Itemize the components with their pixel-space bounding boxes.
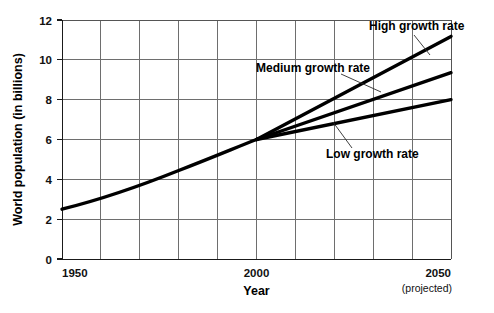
x-tick-label-2050: 2050 <box>425 267 451 279</box>
x-tick-label-1950: 1950 <box>62 267 88 279</box>
y-tick-label-4: 4 <box>46 174 53 186</box>
x-tick-sublabel-projected: (projected) <box>402 282 452 294</box>
annotation-low-growth-rate: Low growth rate <box>326 147 419 161</box>
y-axis-title: World population (in billions) <box>11 53 25 226</box>
chart-canvas: 12 10 8 6 4 2 0 1950 2000 2050 (projecte… <box>0 0 494 313</box>
y-tick-label-0: 0 <box>46 254 52 266</box>
y-axis-ticks <box>57 20 62 259</box>
y-tick-label-10: 10 <box>39 54 52 66</box>
x-axis-title: Year <box>243 284 270 298</box>
y-tick-label-2: 2 <box>46 214 52 226</box>
annotation-high-growth-rate: High growth rate <box>369 19 465 33</box>
annotation-medium-growth-rate: Medium growth rate <box>256 61 370 75</box>
y-tick-label-8: 8 <box>46 94 53 106</box>
x-tick-label-2000: 2000 <box>244 267 270 279</box>
y-tick-label-6: 6 <box>46 134 52 146</box>
population-growth-chart: 12 10 8 6 4 2 0 1950 2000 2050 (projecte… <box>0 0 494 313</box>
y-tick-label-12: 12 <box>39 15 52 27</box>
